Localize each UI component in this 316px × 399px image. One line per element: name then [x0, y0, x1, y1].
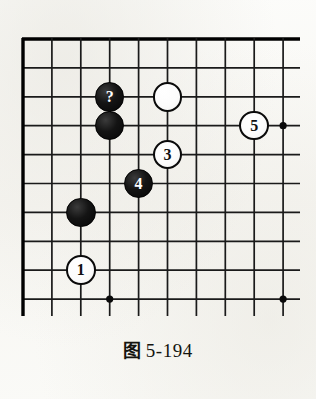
stone-label: 5: [250, 117, 258, 133]
star-point: [280, 296, 287, 303]
stone-black-plain-lower[interactable]: [66, 198, 96, 228]
stone-black-question[interactable]: ?: [95, 82, 125, 112]
stone-label: 4: [135, 175, 143, 191]
stone-white-1[interactable]: 1: [66, 255, 96, 285]
go-board-diagram: ?5341: [0, 0, 316, 330]
stone-label: 3: [164, 146, 172, 162]
stone-white-plain[interactable]: [153, 82, 183, 112]
caption-label: 图: [123, 340, 146, 361]
stone-label: 1: [77, 262, 85, 278]
star-point: [106, 296, 113, 303]
star-point: [280, 122, 287, 129]
caption-number: 5-194: [146, 340, 193, 361]
stone-label: ?: [106, 88, 114, 104]
stone-white-5[interactable]: 5: [239, 111, 269, 141]
figure-caption: 图5-194: [0, 336, 316, 362]
